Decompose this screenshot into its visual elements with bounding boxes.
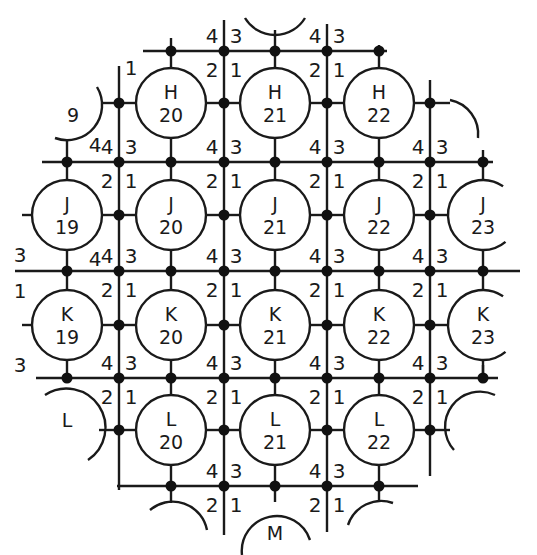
edge-quadrant-label: 3: [14, 353, 27, 377]
junction-dot: [270, 373, 281, 384]
junction-dot: [270, 266, 281, 277]
quadrant-1-label: 1: [230, 278, 243, 302]
die-j20[interactable]: J20: [136, 180, 206, 250]
junction-dot: [478, 157, 489, 168]
quadrant-4-label: 4: [101, 135, 114, 159]
junction-dot: [322, 210, 333, 221]
junction-dot: [219, 320, 230, 331]
quadrant-4-label: 4: [309, 24, 322, 48]
junction-dot: [425, 266, 436, 277]
die-l22[interactable]: L22: [344, 395, 414, 465]
junction-dot: [219, 98, 230, 109]
quadrant-1-label: 1: [333, 385, 346, 409]
quadrant-4-label: 4: [412, 135, 425, 159]
partial-die-label: 9: [67, 104, 79, 126]
junction-dot: [322, 481, 333, 492]
quadrant-1-label: 1: [333, 278, 346, 302]
die-h20[interactable]: H20: [136, 68, 206, 138]
die-l20[interactable]: L20: [136, 395, 206, 465]
quadrant-4-label: 4: [101, 351, 114, 375]
quadrant-1-label: 1: [230, 169, 243, 193]
quadrant-3-label: 3: [230, 244, 243, 268]
quadrant-1-label: 1: [230, 493, 243, 517]
junction-dot: [425, 157, 436, 168]
junction-dot: [219, 46, 230, 57]
die-k21[interactable]: K21: [240, 290, 310, 360]
die-outline: [344, 290, 414, 360]
quadrant-4-label: 4: [206, 244, 219, 268]
die-j21[interactable]: J21: [240, 180, 310, 250]
die-outline: [32, 290, 102, 360]
junction-dot: [62, 266, 73, 277]
junction-dot: [166, 157, 177, 168]
junction-dot: [322, 425, 333, 436]
junction-dot: [166, 46, 177, 57]
junction-dot: [114, 373, 125, 384]
junction-dot: [270, 157, 281, 168]
junction-dot: [425, 373, 436, 384]
quadrant-3-label: 3: [230, 351, 243, 375]
quadrant-2-label: 2: [101, 278, 114, 302]
quadrant-2-label: 2: [206, 385, 219, 409]
quadrant-3-label: 3: [230, 24, 243, 48]
die-l21[interactable]: L21: [240, 395, 310, 465]
quadrant-2-label: 2: [101, 385, 114, 409]
junction-dot: [114, 98, 125, 109]
edge-quadrant-label: 1: [14, 279, 27, 303]
quadrant-3-label: 3: [436, 351, 449, 375]
quadrant-2-label: 2: [206, 58, 219, 82]
junction-dot: [478, 266, 489, 277]
quadrant-3-label: 3: [125, 244, 138, 268]
quadrant-2-label: 2: [412, 169, 425, 193]
wafer-map-svg: H20H21H22J19J20J21J22J23K19K20K21K22K23L…: [0, 0, 537, 555]
junction-dot: [114, 425, 125, 436]
quadrant-1-label: 1: [436, 385, 449, 409]
die-h22[interactable]: H22: [344, 68, 414, 138]
die-row-label: J: [167, 193, 174, 215]
die-row-label: J: [63, 193, 70, 215]
die-k23[interactable]: K23: [448, 290, 505, 360]
quadrant-3-label: 3: [333, 244, 346, 268]
quadrant-3-label: 3: [333, 351, 346, 375]
die-k19[interactable]: K19: [32, 290, 102, 360]
junction-dot: [270, 46, 281, 57]
die-h21[interactable]: H21: [240, 68, 310, 138]
quadrant-2-label: 2: [206, 278, 219, 302]
junction-dot: [166, 481, 177, 492]
die-row-label: K: [269, 303, 282, 325]
quadrant-4-label: 4: [412, 244, 425, 268]
junction-dot: [322, 320, 333, 331]
quadrant-4-label: 4: [309, 351, 322, 375]
die-outline: [344, 395, 414, 465]
die-col-label: 21: [263, 104, 287, 126]
junction-dot: [219, 210, 230, 221]
junction-dot: [219, 425, 230, 436]
die-k22[interactable]: K22: [344, 290, 414, 360]
edge-quadrant-label: 1: [125, 56, 138, 80]
quadrant-4-label: 4: [412, 351, 425, 375]
die-j19[interactable]: J19: [32, 180, 102, 250]
quadrant-4-label: 4: [309, 244, 322, 268]
edge-quadrant-label: 4: [89, 133, 102, 157]
die-k20[interactable]: K20: [136, 290, 206, 360]
quadrant-1-label: 1: [230, 58, 243, 82]
die-row-label: H: [164, 81, 178, 103]
die-outline-partial: [448, 180, 505, 250]
quadrant-4-label: 4: [309, 459, 322, 483]
quadrant-2-label: 2: [206, 169, 219, 193]
die-row-label: K: [477, 303, 490, 325]
die-col-label: 23: [471, 216, 495, 238]
partial-die-l23: [445, 392, 495, 450]
die-j23[interactable]: J23: [448, 180, 505, 250]
junction-dot: [219, 266, 230, 277]
quadrant-3-label: 3: [125, 351, 138, 375]
junction-dot: [166, 266, 177, 277]
die-outline: [136, 68, 206, 138]
edge-quadrant-label: 3: [14, 243, 27, 267]
die-row-label: L: [374, 408, 385, 430]
die-col-label: 21: [263, 431, 287, 453]
die-j22[interactable]: J22: [344, 180, 414, 250]
quadrant-3-label: 3: [436, 135, 449, 159]
junction-dot: [322, 266, 333, 277]
die-col-label: 19: [55, 326, 79, 348]
